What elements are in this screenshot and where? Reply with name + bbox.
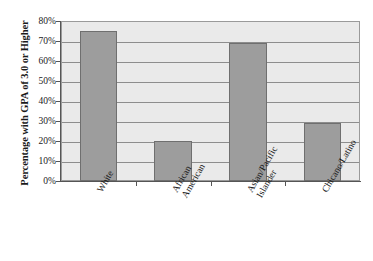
y-axis-tick-mark	[56, 121, 61, 122]
bars-layer	[61, 21, 360, 181]
y-axis-tick-mark	[56, 21, 61, 22]
bar-white[interactable]	[80, 31, 117, 181]
y-axis-tick-mark	[56, 141, 61, 142]
bar-chart: Percentage with GPA of 3.0 or Higher 80%…	[0, 0, 373, 261]
x-axis-tick-mark	[285, 182, 286, 186]
y-axis-tick-label: 30%	[30, 116, 56, 126]
y-axis-tick-labels: 80%70%60%50%40%30%20%10%0%	[30, 21, 59, 181]
y-axis-tick-mark	[56, 161, 61, 162]
y-axis-tick-label: 40%	[30, 96, 56, 106]
y-axis-tick-mark	[56, 41, 61, 42]
y-axis-tick-mark	[56, 61, 61, 62]
x-axis-tick-mark	[211, 182, 212, 186]
y-axis-tick-mark	[56, 101, 61, 102]
y-axis-tick-mark	[56, 81, 61, 82]
x-axis-tick-mark	[136, 182, 137, 186]
y-axis-tick-label: 10%	[30, 156, 56, 166]
y-axis-tick-label: 20%	[30, 136, 56, 146]
y-axis-tick-mark	[56, 181, 61, 182]
y-axis-tick-label: 70%	[30, 36, 56, 46]
y-axis-tick-label: 0%	[30, 176, 56, 186]
y-axis-tick-label: 50%	[30, 76, 56, 86]
y-axis-tick-label: 80%	[30, 16, 56, 26]
y-axis-tick-label: 60%	[30, 56, 56, 66]
